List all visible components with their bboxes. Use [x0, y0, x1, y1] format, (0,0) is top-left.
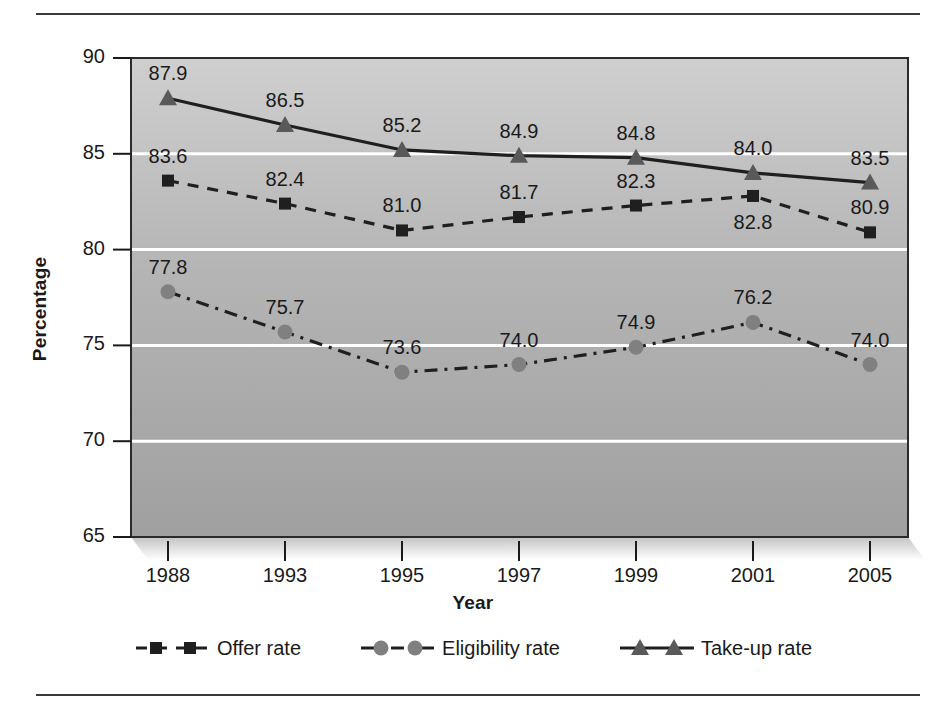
dashed-square-marker-icon	[134, 636, 212, 660]
legend-label-take-up-rate: Take-up rate	[701, 637, 812, 660]
marker-eligibility-rate-1988	[161, 284, 176, 299]
marker-eligibility-rate-1993	[278, 324, 293, 339]
marker-offer-rate-2005	[864, 226, 876, 238]
line-chart: 83.682.481.081.782.382.880.977.875.773.6…	[0, 0, 946, 714]
data-label-take-up-rate-1995: 85.2	[383, 114, 422, 136]
x-tick-label-1995: 1995	[357, 564, 447, 587]
x-axis-title: Year	[0, 592, 946, 614]
y-tick-label-85: 85	[59, 141, 105, 164]
data-label-offer-rate-1999: 82.3	[617, 170, 656, 192]
y-tick-label-70: 70	[59, 428, 105, 451]
x-tick-label-1988: 1988	[123, 564, 213, 587]
data-label-offer-rate-1993: 82.4	[266, 168, 305, 190]
data-label-eligibility-rate-2005: 74.0	[851, 329, 890, 351]
marker-offer-rate-1997	[513, 211, 525, 223]
data-label-offer-rate-1995: 81.0	[383, 194, 422, 216]
marker-offer-rate-1999	[630, 200, 642, 212]
data-label-offer-rate-2005: 80.9	[851, 196, 890, 218]
marker-eligibility-rate-2001	[746, 315, 761, 330]
x-tick-label-2005: 2005	[825, 564, 915, 587]
marker-offer-rate-1995	[396, 224, 408, 236]
data-label-offer-rate-1988: 83.6	[149, 145, 188, 167]
legend-item-take-up-rate[interactable]: Take-up rate	[618, 636, 812, 660]
data-label-eligibility-rate-2001: 76.2	[734, 286, 773, 308]
data-label-offer-rate-2001: 82.8	[734, 211, 773, 233]
data-label-take-up-rate-2005: 83.5	[851, 147, 890, 169]
y-tick-label-80: 80	[59, 237, 105, 260]
marker-eligibility-rate-2005	[863, 357, 878, 372]
solid-triangle-marker-icon	[618, 636, 696, 660]
data-label-eligibility-rate-1993: 75.7	[266, 296, 305, 318]
data-label-take-up-rate-1999: 84.8	[617, 122, 656, 144]
data-label-take-up-rate-1988: 87.9	[149, 62, 188, 84]
figure-container: 83.682.481.081.782.382.880.977.875.773.6…	[0, 0, 946, 714]
marker-offer-rate-1993	[279, 198, 291, 210]
x-tick-label-1999: 1999	[591, 564, 681, 587]
marker-eligibility-rate-1999	[629, 340, 644, 355]
y-tick-label-65: 65	[59, 524, 105, 547]
plot-floor-shadow	[131, 537, 925, 560]
x-tick-label-1997: 1997	[474, 564, 564, 587]
y-tick-label-90: 90	[59, 45, 105, 68]
legend-item-eligibility-rate[interactable]: Eligibility rate	[359, 636, 560, 660]
data-label-take-up-rate-1997: 84.9	[500, 120, 539, 142]
data-label-eligibility-rate-1997: 74.0	[500, 329, 539, 351]
data-label-take-up-rate-1993: 86.5	[266, 89, 305, 111]
data-label-eligibility-rate-1999: 74.9	[617, 311, 656, 333]
data-label-eligibility-rate-1988: 77.8	[149, 256, 188, 278]
x-tick-label-1993: 1993	[240, 564, 330, 587]
dashdot-circle-marker-icon	[359, 636, 437, 660]
marker-eligibility-rate-1997	[512, 357, 527, 372]
data-label-offer-rate-1997: 81.7	[500, 181, 539, 203]
legend-label-offer-rate: Offer rate	[217, 637, 301, 660]
y-axis-title: Percentage	[29, 209, 51, 409]
marker-eligibility-rate-1995	[395, 365, 410, 380]
legend-item-offer-rate[interactable]: Offer rate	[134, 636, 301, 660]
data-label-take-up-rate-2001: 84.0	[734, 137, 773, 159]
data-label-eligibility-rate-1995: 73.6	[383, 336, 422, 358]
legend-label-eligibility-rate: Eligibility rate	[442, 637, 560, 660]
chart-legend: Offer rateEligibility rateTake-up rate	[0, 636, 946, 660]
y-axis-tick-marks	[113, 58, 131, 537]
marker-offer-rate-1988	[162, 175, 174, 187]
x-tick-label-2001: 2001	[708, 564, 798, 587]
y-tick-label-75: 75	[59, 332, 105, 355]
marker-offer-rate-2001	[747, 190, 759, 202]
